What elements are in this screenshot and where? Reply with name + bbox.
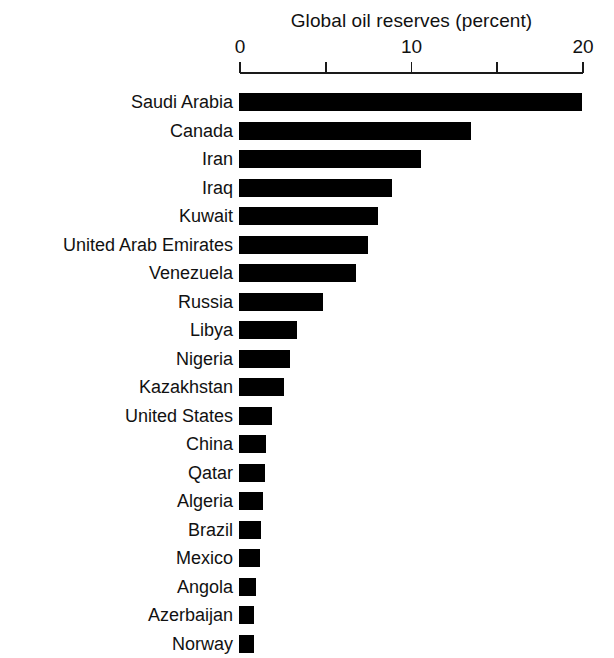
bar-category-label: Saudi Arabia	[131, 92, 233, 112]
bar-row: Nigeria	[0, 345, 614, 374]
bar-category-label: Iran	[202, 149, 233, 169]
bar-category-label: China	[186, 434, 233, 454]
bar	[239, 122, 471, 140]
bar-category-label: Qatar	[188, 463, 233, 483]
bar-row: Mexico	[0, 544, 614, 573]
bar-row: Algeria	[0, 487, 614, 516]
bar-category-label: Russia	[178, 292, 233, 312]
bar-row: Canada	[0, 117, 614, 146]
bar	[239, 407, 272, 425]
bar-row: Qatar	[0, 459, 614, 488]
bar-category-label: Mexico	[176, 548, 233, 568]
bar	[239, 464, 265, 482]
bar	[239, 635, 254, 653]
bar-row: Russia	[0, 288, 614, 317]
bar-row: China	[0, 430, 614, 459]
bar-row: Kuwait	[0, 202, 614, 231]
bar-row: Angola	[0, 573, 614, 602]
bar	[239, 264, 356, 282]
bar-category-label: United Arab Emirates	[63, 235, 233, 255]
bar-category-label: United States	[125, 406, 233, 426]
bar-category-label: Kuwait	[179, 206, 233, 226]
bar-category-label: Algeria	[177, 491, 233, 511]
bar-category-label: Libya	[190, 320, 233, 340]
bar-row: Libya	[0, 316, 614, 345]
bar-row: Brazil	[0, 516, 614, 545]
bar-row: Azerbaijan	[0, 601, 614, 630]
bar-category-label: Venezuela	[149, 263, 233, 283]
bar	[239, 378, 284, 396]
bar	[239, 435, 266, 453]
bar-category-label: Angola	[177, 577, 233, 597]
bar-row: Saudi Arabia	[0, 88, 614, 117]
bar-category-label: Iraq	[202, 178, 233, 198]
bar-category-label: Azerbaijan	[148, 605, 233, 625]
bar-row: Iran	[0, 145, 614, 174]
bar-category-label: Nigeria	[176, 349, 233, 369]
bar-row: Norway	[0, 630, 614, 658]
bar	[239, 179, 392, 197]
bar-category-label: Brazil	[188, 520, 233, 540]
bar	[239, 578, 256, 596]
bar-row: Venezuela	[0, 259, 614, 288]
bar	[239, 293, 323, 311]
bar-row: Iraq	[0, 174, 614, 203]
bar	[239, 236, 368, 254]
bar-row: United Arab Emirates	[0, 231, 614, 260]
bar	[239, 321, 297, 339]
bar	[239, 350, 290, 368]
bar-row: Kazakhstan	[0, 373, 614, 402]
bar	[239, 606, 254, 624]
bar-category-label: Norway	[172, 634, 233, 654]
bar	[239, 207, 378, 225]
bar	[239, 93, 582, 111]
bar	[239, 521, 261, 539]
bar-category-label: Canada	[170, 121, 233, 141]
bar	[239, 150, 421, 168]
bar	[239, 549, 260, 567]
bar	[239, 492, 263, 510]
bar-category-label: Kazakhstan	[139, 377, 233, 397]
bar-row: United States	[0, 402, 614, 431]
